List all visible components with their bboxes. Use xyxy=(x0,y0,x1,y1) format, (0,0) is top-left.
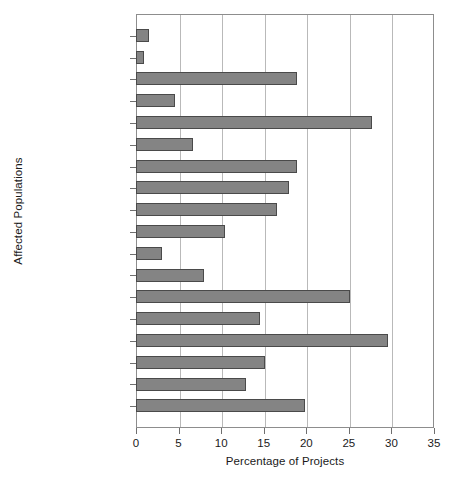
bar xyxy=(136,356,265,369)
bar-row xyxy=(136,352,434,374)
bar-row xyxy=(136,374,434,396)
bar-row xyxy=(136,90,434,112)
y-tick-mark xyxy=(130,188,136,189)
x-tick-label: 0 xyxy=(116,437,156,449)
y-tick-mark xyxy=(130,145,136,146)
bar xyxy=(136,94,175,107)
bar-row xyxy=(136,330,434,352)
y-tick-mark xyxy=(130,275,136,276)
bar-row xyxy=(136,395,434,417)
bar-row xyxy=(136,177,434,199)
bar xyxy=(136,160,297,173)
x-tick-mark xyxy=(179,428,180,434)
bar-row xyxy=(136,199,434,221)
x-tick-label: 35 xyxy=(414,437,450,449)
bar xyxy=(136,269,204,282)
bar xyxy=(136,399,305,412)
x-axis-title: Percentage of Projects xyxy=(136,455,434,467)
bar xyxy=(136,247,162,260)
bar-row xyxy=(136,134,434,156)
bar-row xyxy=(136,265,434,287)
y-tick-mark xyxy=(130,406,136,407)
bar xyxy=(136,138,193,151)
x-tick-label: 25 xyxy=(329,437,369,449)
y-tick-mark xyxy=(130,341,136,342)
x-tick-label: 5 xyxy=(159,437,199,449)
bar-chart: Affected Populations Health researchOthe… xyxy=(0,0,450,479)
y-tick-mark xyxy=(130,210,136,211)
x-tick-mark xyxy=(221,428,222,434)
y-tick-mark xyxy=(130,254,136,255)
bar-row xyxy=(136,286,434,308)
bars-group xyxy=(136,14,434,428)
bar xyxy=(136,116,372,129)
bar-row xyxy=(136,308,434,330)
bar-row xyxy=(136,112,434,134)
y-tick-mark xyxy=(130,79,136,80)
x-tick-label: 30 xyxy=(371,437,411,449)
x-tick-mark xyxy=(136,428,137,434)
bar xyxy=(136,203,277,216)
y-tick-mark xyxy=(130,319,136,320)
bar xyxy=(136,181,289,194)
bar-row xyxy=(136,156,434,178)
bar xyxy=(136,378,246,391)
x-tick-mark xyxy=(349,428,350,434)
x-tick-label: 20 xyxy=(286,437,326,449)
y-tick-mark xyxy=(130,167,136,168)
y-tick-mark xyxy=(130,297,136,298)
x-tick-mark xyxy=(264,428,265,434)
x-tick-mark xyxy=(434,428,435,434)
y-tick-mark xyxy=(130,36,136,37)
x-tick-label: 15 xyxy=(244,437,284,449)
y-tick-mark xyxy=(130,232,136,233)
bar xyxy=(136,290,350,303)
bar xyxy=(136,334,388,347)
y-tick-mark xyxy=(130,58,136,59)
bar-row xyxy=(136,221,434,243)
bar xyxy=(136,312,260,325)
bar xyxy=(136,72,297,85)
x-tick-mark xyxy=(306,428,307,434)
bar xyxy=(136,51,144,64)
bar-row xyxy=(136,68,434,90)
y-tick-mark xyxy=(130,363,136,364)
bar xyxy=(136,225,225,238)
y-axis-title: Affected Populations xyxy=(12,121,24,301)
y-tick-mark xyxy=(130,123,136,124)
x-tick-label: 10 xyxy=(201,437,241,449)
y-tick-mark xyxy=(130,384,136,385)
bar-row xyxy=(136,47,434,69)
bar-row xyxy=(136,25,434,47)
bar xyxy=(136,29,149,42)
x-tick-mark xyxy=(391,428,392,434)
y-tick-mark xyxy=(130,101,136,102)
bar-row xyxy=(136,243,434,265)
